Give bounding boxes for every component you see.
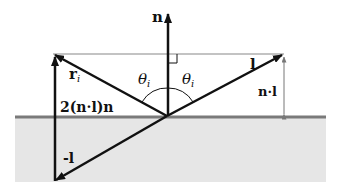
normal-label: n <box>152 8 163 26</box>
right-angle-marker <box>168 54 177 63</box>
theta-right-label: θi <box>182 70 194 89</box>
n-dot-l-label: n·l <box>258 84 277 99</box>
negative-light-label: -l <box>63 150 74 166</box>
theta-left-label: θi <box>138 70 150 89</box>
reflection-diagram: n ri θi θi l n·l 2(n·l)n -l <box>0 0 342 190</box>
theta-arc-left <box>142 88 168 102</box>
surface-region <box>15 117 326 182</box>
light-label: l <box>250 55 256 73</box>
theta-arc-right <box>168 88 193 102</box>
two-n-dot-l-n-label: 2(n·l)n <box>60 99 114 115</box>
